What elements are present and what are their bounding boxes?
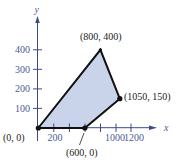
y-tick-300: 300 xyxy=(15,64,30,75)
vertex-right xyxy=(117,96,122,101)
vertex-top xyxy=(99,48,102,51)
vertex-label-origin: (0, 0) xyxy=(3,132,25,144)
feasible-region xyxy=(38,50,120,128)
feasible-region-diagram: y x 400 300 200 100 200 1000 1200 (0, 0)… xyxy=(0,0,181,166)
vertex-origin xyxy=(36,125,41,130)
y-tick-200: 200 xyxy=(15,83,30,94)
x-tick-1200: 1200 xyxy=(124,132,144,143)
x-tick-200: 200 xyxy=(48,132,63,143)
x-tick-1000: 1000 xyxy=(105,132,125,143)
vertex-label-right: (1050, 150) xyxy=(124,91,171,103)
diagram-canvas: y x 400 300 200 100 200 1000 1200 (0, 0)… xyxy=(0,0,181,166)
y-tick-400: 400 xyxy=(15,44,30,55)
y-axis xyxy=(33,16,42,141)
leader-line-bottom xyxy=(80,133,85,145)
y-axis-label: y xyxy=(34,4,40,15)
x-axis-arrow-icon xyxy=(149,125,157,130)
y-axis-arrow-icon xyxy=(35,16,40,23)
vertex-label-bottom: (600, 0) xyxy=(66,147,98,159)
vertex-bottom xyxy=(82,125,87,130)
vertex-label-top: (800, 400) xyxy=(80,31,122,43)
x-axis-label: x xyxy=(163,122,169,133)
y-tick-100: 100 xyxy=(15,103,30,114)
